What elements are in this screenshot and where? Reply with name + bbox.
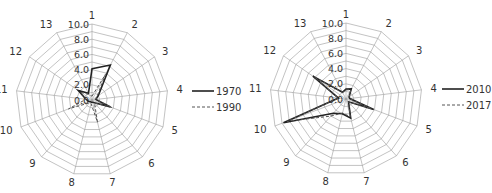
axis-label-7: 7 [363, 176, 369, 187]
axis-label-1: 1 [89, 10, 95, 21]
axis-label-10: 10 [0, 125, 13, 136]
axis-label-12: 12 [263, 45, 276, 56]
axis-label-1: 1 [343, 9, 349, 20]
legend: 19701990 [192, 86, 241, 113]
radial-tick-label: 10.0 [322, 18, 343, 29]
legend-label-1970: 1970 [216, 86, 241, 97]
axis-label-8: 8 [68, 177, 74, 188]
axis-label-9: 9 [283, 157, 289, 168]
axis-label-13: 13 [40, 19, 53, 30]
axis-label-5: 5 [171, 125, 177, 136]
radial-tick-label: 4.0 [74, 64, 89, 75]
radial-tick-label: 8.0 [328, 33, 343, 44]
radial-tick-label: 6.0 [74, 49, 89, 60]
axis-label-9: 9 [29, 158, 35, 169]
radar-chart-figure: 0.02.04.06.08.010.0123456789101112131970… [0, 0, 492, 193]
radar-charts-canvas: 0.02.04.06.08.010.0123456789101112131970… [0, 0, 492, 193]
axis-label-11: 11 [0, 84, 8, 95]
radar-chart-2: 0.02.04.06.08.010.0123456789101112132010… [249, 9, 492, 188]
radar-grid [17, 24, 168, 174]
axis-label-4: 4 [176, 84, 182, 95]
axis-label-3: 3 [416, 45, 422, 56]
radar-grid [271, 23, 422, 173]
legend-label-2010: 2010 [466, 84, 491, 95]
axis-label-5: 5 [425, 124, 431, 135]
axis-label-6: 6 [148, 158, 154, 169]
axis-label-8: 8 [322, 176, 328, 187]
radial-tick-label: 8.0 [74, 34, 89, 45]
axis-label-2: 2 [132, 19, 138, 30]
axis-label-7: 7 [109, 177, 115, 188]
legend-label-2017: 2017 [466, 100, 491, 111]
legend: 20102017 [442, 84, 491, 111]
axis-label-12: 12 [9, 46, 22, 57]
axis-label-4: 4 [430, 83, 436, 94]
axis-label-13: 13 [294, 18, 307, 29]
axis-label-6: 6 [402, 157, 408, 168]
radial-tick-label: 10.0 [68, 19, 89, 30]
radial-tick-label: 2.0 [74, 79, 89, 90]
axis-label-10: 10 [254, 124, 267, 135]
radial-tick-label: 6.0 [328, 48, 343, 59]
axis-label-11: 11 [249, 83, 262, 94]
axis-label-3: 3 [162, 46, 168, 57]
radar-chart-1: 0.02.04.06.08.010.0123456789101112131970… [0, 10, 241, 189]
axis-label-2: 2 [386, 18, 392, 29]
radial-tick-label: 4.0 [328, 63, 343, 74]
legend-label-1990: 1990 [216, 102, 241, 113]
